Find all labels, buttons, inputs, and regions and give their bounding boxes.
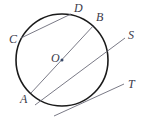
- tangent-line-t: [54, 84, 124, 116]
- center-point-o: [61, 59, 64, 62]
- label-a: A: [19, 92, 28, 106]
- label-o: O: [51, 51, 60, 65]
- label-d: D: [73, 1, 83, 15]
- label-t: T: [128, 77, 136, 91]
- label-s: S: [128, 28, 134, 42]
- label-b: B: [96, 10, 104, 24]
- label-c: C: [9, 32, 18, 46]
- secant-line-s: [35, 38, 125, 105]
- circle-diagram: D B C O A S T: [0, 0, 144, 121]
